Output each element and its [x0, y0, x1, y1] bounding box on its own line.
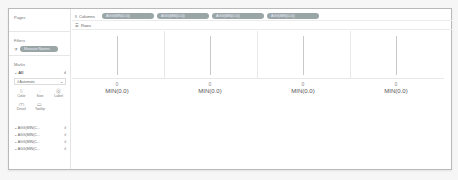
- rows-shelf[interactable]: ☰Rows: [72, 21, 452, 30]
- zero-line: [210, 36, 211, 75]
- axis-divider: [72, 78, 444, 79]
- column-pill[interactable]: AGG(MIN(0.0)): [267, 13, 319, 19]
- axis-title[interactable]: MIN(0.0): [366, 88, 426, 94]
- mark-type-value: Automatic: [20, 80, 36, 84]
- columns-shelf-label: ⦀Columns: [72, 14, 102, 19]
- columns-label-text: Columns: [79, 14, 95, 19]
- color-button[interactable]: ⁞⁞Color: [12, 88, 31, 98]
- axis-tick: 0: [283, 81, 323, 87]
- columns-shelf[interactable]: ⦀Columns AGG(MIN(0.0)) AGG(MIN(0.0)) AGG…: [72, 12, 452, 21]
- mark-type-dropdown[interactable]: ıl Automatic ⌄: [14, 78, 66, 85]
- rows-shelf-label: ☰Rows: [72, 23, 102, 28]
- rows-icon: ☰: [75, 23, 79, 28]
- zero-line: [117, 36, 118, 75]
- column-pill[interactable]: AGG(MIN(0.0)): [212, 13, 264, 19]
- viz-view[interactable]: 0 0 0 0 MIN(0.0) MIN(0.0) MIN(0.0) MIN(0…: [72, 31, 444, 169]
- label-label: Label: [54, 94, 63, 98]
- axis-title[interactable]: MIN(0.0): [87, 88, 147, 94]
- pane-3: [258, 31, 351, 78]
- measure-item[interactable]: ⌄ AGG(MIN(C...ıl: [9, 146, 71, 153]
- pages-card-title: Pages: [9, 9, 71, 20]
- axis-tick: 0: [97, 81, 137, 87]
- filter-icon: ⧩: [14, 47, 18, 52]
- size-button[interactable]: ◌Size: [31, 88, 50, 98]
- bar-chart-icon: ıl: [64, 132, 66, 139]
- detail-label: Detail: [17, 107, 26, 111]
- label-button[interactable]: ⓪Label: [49, 88, 68, 98]
- bar-chart-icon: ıl: [64, 125, 66, 132]
- pane-4: [351, 31, 444, 78]
- measure-item[interactable]: ⌄ AGG(MIN(C...ıl: [9, 139, 71, 146]
- pages-card[interactable]: Pages: [9, 9, 71, 32]
- measure-label: AGG(MIN(C...: [18, 140, 40, 144]
- measure-item[interactable]: ⌄ AGG(MIN(C...ıl: [9, 125, 71, 132]
- bar-chart-icon: ıl: [64, 139, 66, 146]
- column-pill[interactable]: AGG(MIN(0.0)): [102, 13, 154, 19]
- axis-title[interactable]: MIN(0.0): [180, 88, 240, 94]
- marks-all-row[interactable]: ⌄ All ıl: [9, 67, 71, 75]
- columns-icon: ⦀: [75, 14, 77, 19]
- measure-label: AGG(MIN(C...: [18, 147, 40, 151]
- zero-line: [396, 36, 397, 75]
- tooltip-button[interactable]: ▭Tooltip: [31, 101, 50, 111]
- marks-card-title: Marks: [9, 56, 71, 67]
- tooltip-label: Tooltip: [35, 107, 45, 111]
- size-label: Size: [37, 94, 44, 98]
- measure-label: AGG(MIN(C...: [18, 133, 40, 137]
- measure-label: AGG(MIN(C...: [18, 126, 40, 130]
- axis-title[interactable]: MIN(0.0): [273, 88, 333, 94]
- rows-label-text: Rows: [81, 23, 91, 28]
- filter-pill-measure-names[interactable]: Measure Names: [20, 46, 58, 52]
- detail-button[interactable]: ⩋Detail: [12, 101, 31, 111]
- marks-all-label: All: [18, 70, 23, 75]
- measure-item[interactable]: ⌄ AGG(MIN(C...ıl: [9, 132, 71, 139]
- filters-card[interactable]: Filters ⧩ Measure Names: [9, 32, 71, 56]
- bar-chart-icon: ıl: [64, 70, 66, 75]
- filters-card-title: Filters: [9, 32, 71, 43]
- pane-1: [72, 31, 165, 78]
- dropdown-chevron-icon: ⌄: [60, 79, 63, 84]
- axis-tick: 0: [190, 81, 230, 87]
- color-label: Color: [17, 94, 25, 98]
- marks-buttons: ⁞⁞Color ◌Size ⓪Label ⩋Detail ▭Tooltip: [9, 85, 71, 111]
- tableau-worksheet: Pages Filters ⧩ Measure Names Marks ⌄ Al…: [8, 8, 452, 170]
- pane-2: [165, 31, 258, 78]
- axis-tick: 0: [376, 81, 416, 87]
- bar-chart-icon: ıl: [64, 146, 66, 153]
- zero-line: [303, 36, 304, 75]
- left-cards-panel: Pages Filters ⧩ Measure Names Marks ⌄ Al…: [9, 9, 71, 169]
- column-pill[interactable]: AGG(MIN(0.0)): [157, 13, 209, 19]
- marks-card: Marks ⌄ All ıl ıl Automatic ⌄ ⁞⁞Color ◌S…: [9, 56, 71, 169]
